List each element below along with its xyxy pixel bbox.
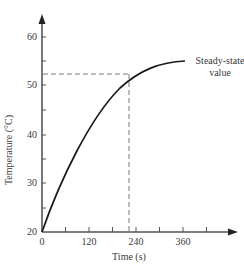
annotation-steady-state-line1: Steady-state <box>196 55 244 66</box>
x-tick-label-0: 0 <box>40 236 45 247</box>
chart-canvas: 60 50 40 30 20 0 120 240 360 Time (s) Te… <box>0 0 244 275</box>
x-axis-arrow-icon <box>228 229 238 236</box>
y-tick-label-20: 20 <box>27 226 37 237</box>
y-axis-title: Temperature (°C) <box>3 115 15 185</box>
annotation-steady-state-line2: value <box>209 67 231 78</box>
y-tick-label-60: 60 <box>27 31 37 42</box>
x-tick-label-240: 240 <box>129 236 144 247</box>
x-tick-label-120: 120 <box>82 236 97 247</box>
y-axis-arrow-icon <box>39 14 46 24</box>
y-tick-label-50: 50 <box>27 79 37 90</box>
x-tick-label-360: 360 <box>176 236 191 247</box>
y-tick-label-30: 30 <box>27 177 37 188</box>
y-tick-label-40: 40 <box>27 129 37 140</box>
x-axis-title: Time (s) <box>112 251 146 263</box>
temperature-curve <box>42 61 185 232</box>
